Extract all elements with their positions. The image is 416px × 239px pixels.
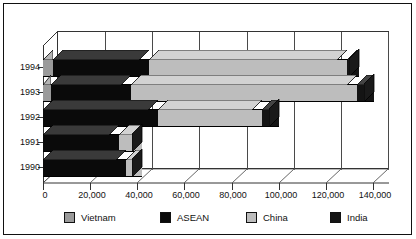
- bar-endcap-1990: [132, 149, 143, 177]
- legend-item-vietnam[interactable]: Vietnam: [64, 212, 116, 223]
- x-tick-20000: [90, 183, 91, 190]
- x-axis-label-100000: 100,000: [265, 190, 298, 201]
- bar-segment-1992-china: [158, 109, 262, 127]
- x-tick-40000: [137, 183, 138, 190]
- x-tick-140000: [373, 183, 374, 190]
- x-tick-100000: [279, 183, 280, 190]
- legend-label-china: China: [263, 212, 288, 223]
- x-axis-label-20000: 20,000: [78, 190, 106, 201]
- legend-label-india: India: [347, 212, 368, 223]
- axis-depth-edge: [43, 31, 58, 46]
- bar-endcap-1993: [364, 74, 375, 102]
- x-tick-60000: [184, 183, 185, 190]
- y-axis-label-1992: 1992: [6, 112, 40, 122]
- gridline-140000: [388, 32, 389, 170]
- legend-item-china[interactable]: China: [246, 212, 288, 223]
- plot-area: [43, 31, 389, 183]
- x-axis-labels: 0 20,000 40,000 60,000 80,000 100,000 12…: [0, 190, 416, 204]
- x-axis-label-60000: 60,000: [172, 190, 200, 201]
- legend-swatch-vietnam-icon: [64, 212, 75, 223]
- x-axis-label-120000: 120,000: [312, 190, 345, 201]
- chart-legend: Vietnam ASEAN China India: [0, 209, 416, 229]
- bar-endcap-1994: [349, 49, 360, 77]
- x-axis-label-80000: 80,000: [219, 190, 247, 201]
- y-axis-label-1991: 1991: [6, 137, 40, 147]
- x-axis-label-0: 0: [42, 190, 47, 201]
- legend-label-asean: ASEAN: [177, 212, 209, 223]
- legend-item-india[interactable]: India: [330, 212, 368, 223]
- legend-swatch-china-icon: [246, 212, 257, 223]
- y-axis-label-1993: 1993: [6, 87, 40, 97]
- x-tick-120000: [326, 183, 327, 190]
- y-axis-label-1990: 1990: [6, 162, 40, 172]
- bar-endcap-1992: [269, 99, 280, 127]
- bar-segment-1990-asean: [43, 159, 126, 177]
- legend-label-vietnam: Vietnam: [81, 212, 116, 223]
- x-tick-80000: [232, 183, 233, 190]
- bar-group-1990: [43, 159, 153, 177]
- y-axis-label-1994: 1994: [6, 62, 40, 72]
- legend-swatch-asean-icon: [160, 212, 171, 223]
- legend-item-asean[interactable]: ASEAN: [160, 212, 209, 223]
- bar-endcap-1991: [132, 124, 143, 152]
- chart-root: 1994 1993 1992 1991 1990 0 20,000 40,000…: [0, 0, 416, 239]
- x-axis-label-140000: 140,000: [359, 190, 392, 201]
- x-tick-0: [43, 183, 44, 190]
- legend-swatch-india-icon: [330, 212, 341, 223]
- x-axis-label-40000: 40,000: [125, 190, 153, 201]
